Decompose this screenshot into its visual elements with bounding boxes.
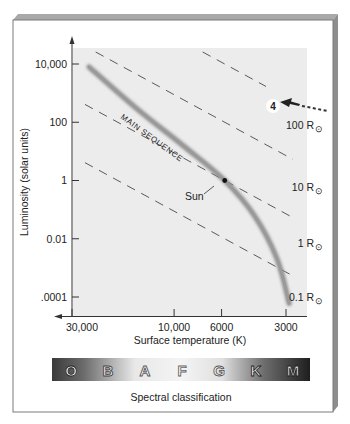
radius-label: 10 R <box>292 181 315 193</box>
y-tick-label: 0.01 <box>47 233 68 245</box>
x-axis-label: Surface temperature (K) <box>134 334 247 346</box>
sun-symbol-icon: ⊙ <box>315 124 323 134</box>
frame-bevel-right <box>333 14 338 412</box>
sun-label: Sun <box>185 190 204 202</box>
radius-label: 100 R <box>286 119 314 131</box>
y-tick-label: 1 <box>61 174 67 186</box>
radius-label: 0.1 R <box>289 291 315 303</box>
y-tick-label: 100 <box>49 116 67 128</box>
x-tick-label: 10,000 <box>158 321 190 333</box>
radius-label: 1 R <box>298 237 315 249</box>
x-tick-label: 6000 <box>210 321 234 333</box>
spectral-class-b: B <box>103 362 114 379</box>
spectral-class-k: K <box>251 362 262 379</box>
spectral-classification-label: Spectral classification <box>131 391 232 403</box>
step-marker-number: 4 <box>270 101 276 112</box>
hr-diagram-figure: 10,00010010.01.0001 30,00010,00060003000… <box>0 0 350 424</box>
sun-dot <box>222 178 227 183</box>
spectral-class-o: O <box>65 362 77 379</box>
y-tick-label: .0001 <box>41 291 67 303</box>
sun-symbol-icon: ⊙ <box>315 186 323 196</box>
spectral-class-a: A <box>140 362 151 379</box>
y-axis-label: Luminosity (solar units) <box>18 128 30 236</box>
plot-area <box>73 48 307 316</box>
spectral-class-m: M <box>287 362 300 379</box>
y-tick-label: 10,000 <box>35 58 67 70</box>
x-tick-label: 30,000 <box>66 321 98 333</box>
spectral-class-f: F <box>177 362 186 379</box>
sun-symbol-icon: ⊙ <box>315 242 323 252</box>
frame-bevel-top <box>13 14 338 20</box>
x-tick-label: 3000 <box>274 321 298 333</box>
sun-symbol-icon: ⊙ <box>315 296 323 306</box>
spectral-class-g: G <box>213 362 225 379</box>
spectral-classification-bar: OBAFGKM <box>52 358 310 381</box>
